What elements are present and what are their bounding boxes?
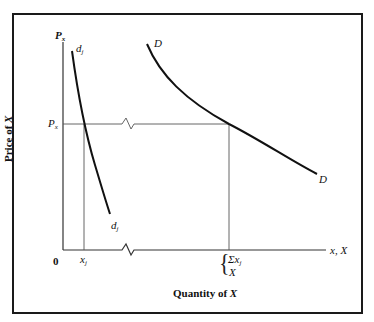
y-axis-top-label-sub: x <box>62 35 66 43</box>
market-quantity-sum-label-sub: j <box>239 259 241 267</box>
market-demand-top-label-text: D <box>154 37 162 49</box>
x-axis-title-prefix: Quantity of <box>173 287 230 299</box>
market-quantity-label: X <box>229 267 236 278</box>
market-quantity-label-text: X <box>229 266 236 278</box>
origin-label-text: 0 <box>53 255 59 267</box>
individual-quantity-label: xj <box>80 254 87 267</box>
market-quantity-sum-label-text: Σx <box>228 253 239 265</box>
individual-demand-curve <box>72 51 110 214</box>
demand-diagram <box>0 0 374 322</box>
market-demand-curve <box>147 44 317 174</box>
price-level-label: Px <box>48 118 58 131</box>
price-level-label-sub: x <box>55 123 58 131</box>
individual-demand-top-label-sub: j <box>82 48 84 56</box>
x-axis <box>63 244 326 255</box>
individual-demand-top-label: dj <box>76 43 83 56</box>
price-level-label-text: P <box>48 117 55 129</box>
y-axis-title-prefix: Price of <box>2 123 14 162</box>
market-demand-bottom-label-text: D <box>319 173 327 185</box>
price-guide-line <box>63 118 229 129</box>
market-demand-top-label: D <box>154 38 162 49</box>
individual-demand-bottom-label: dj <box>111 220 118 233</box>
origin-label: 0 <box>53 256 59 267</box>
x-axis-end-label: x, X <box>330 245 347 256</box>
individual-quantity-label-sub: j <box>85 259 87 267</box>
y-axis-top-label-text: P <box>55 29 62 41</box>
y-axis-top-label: Px <box>55 30 65 43</box>
market-demand-bottom-label: D <box>319 174 327 185</box>
x-axis-title: Quantity of X <box>173 288 237 299</box>
x-axis-end-label-text: x, X <box>330 244 347 256</box>
individual-demand-bottom-label-sub: j <box>117 225 119 233</box>
x-axis-title-var: X <box>230 287 237 299</box>
y-axis-title-var: X <box>2 116 14 123</box>
y-axis-title: Price of X <box>3 116 14 162</box>
